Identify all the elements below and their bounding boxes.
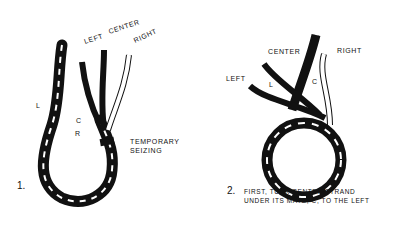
fig1-number: 1. — [17, 180, 25, 191]
figure-2-rope — [250, 35, 341, 197]
fig2-label-right: RIGHT — [337, 47, 362, 55]
figure-1-rope — [43, 45, 129, 201]
fig2-caption-2: UNDER ITS MATE, C, TO THE LEFT — [244, 197, 370, 205]
fig1-label-seizing-2: SEIZING — [130, 147, 162, 155]
fig1-label-c: C — [76, 117, 82, 125]
fig2-caption-1: FIRST, TUCK CENTER STRAND — [244, 188, 355, 196]
fig2-label-l: L — [269, 81, 274, 89]
fig2-label-center: CENTER — [268, 48, 300, 56]
fig1-label-seizing-1: TEMPORARY — [130, 138, 180, 146]
fig2-label-left: LEFT — [226, 75, 246, 83]
fig1-label-r: R — [75, 130, 81, 138]
fig2-label-c: C — [312, 78, 318, 86]
fig1-label-l: L — [36, 102, 41, 110]
fig2-number: 2. — [227, 185, 235, 196]
